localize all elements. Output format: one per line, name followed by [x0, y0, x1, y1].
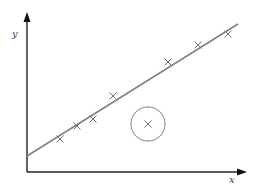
scatter-diagram — [0, 0, 261, 188]
x-axis-label: x — [229, 174, 235, 185]
best-fit-line — [27, 24, 238, 156]
y-axis-label: y — [12, 28, 18, 39]
data-points — [57, 31, 232, 143]
y-axis-arrow-icon — [24, 12, 31, 22]
outlier-point — [145, 121, 152, 128]
x-axis-arrow-icon — [237, 169, 247, 176]
